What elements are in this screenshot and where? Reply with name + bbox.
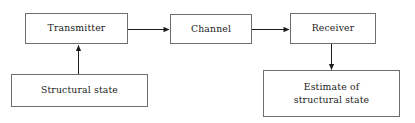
node-estimate-of-structural-state: Estimate of structural state [263, 70, 400, 117]
node-transmitter-label: Transmitter [45, 22, 109, 34]
node-transmitter: Transmitter [25, 13, 128, 44]
node-estimate-label: Estimate of structural state [291, 81, 372, 106]
node-receiver: Receiver [290, 13, 376, 44]
node-structural-state-label: Structural state [38, 84, 121, 96]
node-channel: Channel [170, 14, 252, 44]
node-receiver-label: Receiver [309, 22, 358, 34]
block-diagram: Transmitter Channel Receiver Structural … [0, 0, 415, 123]
node-channel-label: Channel [188, 23, 234, 35]
node-structural-state: Structural state [11, 74, 148, 107]
